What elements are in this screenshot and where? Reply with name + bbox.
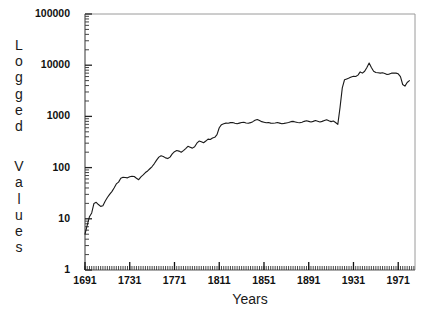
- x-tick-label: 1931: [342, 274, 365, 286]
- x-tick-label: 1811: [208, 274, 231, 286]
- x-axis-tick-labels: 16911731177118111851189119311971: [0, 0, 429, 314]
- x-tick-label: 1691: [73, 274, 96, 286]
- x-tick-label: 1731: [118, 274, 141, 286]
- chart-figure: LoggedValues 110100100010000100000 16911…: [0, 0, 429, 314]
- x-tick-label: 1771: [163, 274, 186, 286]
- x-tick-label: 1851: [252, 274, 275, 286]
- x-axis-title: Years: [85, 291, 415, 307]
- x-tick-label: 1891: [297, 274, 320, 286]
- x-tick-label: 1971: [387, 274, 410, 286]
